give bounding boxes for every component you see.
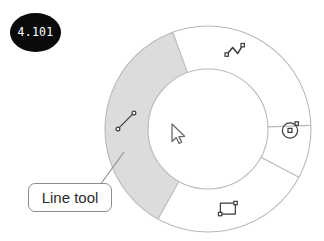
step-badge-label: 4.101 bbox=[10, 13, 61, 52]
radial-menu-screenshot: 4.101 Line tool bbox=[0, 0, 324, 241]
mouse-pointer-icon bbox=[172, 124, 185, 143]
callout-label-text: Line tool bbox=[42, 190, 99, 205]
step-number-badge: 4.101 bbox=[10, 13, 61, 52]
callout-label-box: Line tool bbox=[28, 183, 112, 212]
